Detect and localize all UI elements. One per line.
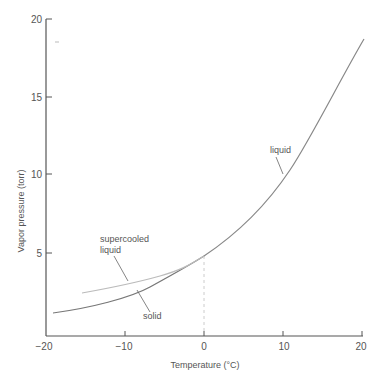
y-tick-label: 10 [31, 169, 43, 180]
x-tick-label: −10 [116, 341, 133, 352]
supercooled-liquid-curve [82, 256, 204, 293]
x-tick-label: −20 [36, 341, 53, 352]
annotation-solid: solid [137, 290, 162, 321]
annotation-text: supercooled [100, 234, 149, 244]
annotation-text: liquid [270, 145, 291, 155]
leader-line [276, 157, 283, 174]
x-tick-labels: −20 −10 0 10 20 [36, 341, 367, 352]
y-tick-labels: 20 15 10 5 [31, 14, 43, 259]
annotation-text: liquid [100, 245, 121, 255]
annotation-supercooled-liquid: supercooled liquid [100, 234, 149, 281]
annotation-text: solid [143, 311, 162, 321]
x-tick-label: 20 [355, 341, 367, 352]
vapor-pressure-chart: 20 15 10 5 −20 −10 0 10 20 Temperature (… [0, 0, 384, 383]
y-tick-label: 20 [31, 14, 43, 25]
annotation-liquid: liquid [270, 145, 291, 174]
y-tick-label: 15 [31, 92, 43, 103]
x-axis-title: Temperature (°C) [170, 360, 239, 370]
x-tick-label: 0 [201, 341, 207, 352]
solid-curve [53, 256, 204, 313]
leader-line [137, 290, 150, 312]
leader-line [114, 256, 128, 281]
y-tick-label: 5 [36, 248, 42, 259]
x-tick-label: 10 [278, 341, 290, 352]
y-axis-title: Vapor pressure (torr) [16, 170, 26, 253]
